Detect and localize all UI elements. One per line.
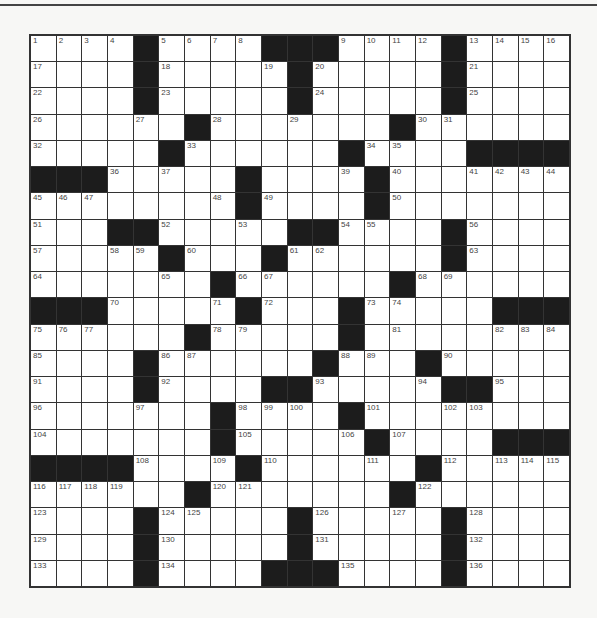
grid-cell[interactable] <box>185 62 210 87</box>
grid-cell[interactable] <box>108 430 133 455</box>
grid-cell[interactable] <box>57 115 82 140</box>
grid-cell[interactable] <box>236 377 261 402</box>
grid-cell[interactable]: 3 <box>82 36 107 61</box>
grid-cell[interactable] <box>442 167 467 192</box>
grid-cell[interactable]: 40 <box>390 167 415 192</box>
grid-cell[interactable]: 112 <box>442 456 467 481</box>
grid-cell[interactable] <box>262 482 287 507</box>
grid-cell[interactable] <box>544 535 569 560</box>
grid-cell[interactable] <box>211 167 236 192</box>
grid-cell[interactable] <box>288 193 313 218</box>
grid-cell[interactable]: 107 <box>390 430 415 455</box>
grid-cell[interactable] <box>211 535 236 560</box>
grid-cell[interactable] <box>108 377 133 402</box>
grid-cell[interactable] <box>262 325 287 350</box>
grid-cell[interactable] <box>339 535 364 560</box>
grid-cell[interactable] <box>57 272 82 297</box>
grid-cell[interactable] <box>416 535 441 560</box>
grid-cell[interactable]: 73 <box>365 298 390 323</box>
grid-cell[interactable] <box>365 115 390 140</box>
grid-cell[interactable] <box>108 88 133 113</box>
grid-cell[interactable] <box>519 561 544 586</box>
grid-cell[interactable] <box>365 377 390 402</box>
grid-cell[interactable] <box>416 325 441 350</box>
grid-cell[interactable] <box>390 456 415 481</box>
grid-cell[interactable] <box>493 535 518 560</box>
grid-cell[interactable] <box>57 561 82 586</box>
grid-cell[interactable]: 135 <box>339 561 364 586</box>
grid-cell[interactable] <box>467 430 492 455</box>
grid-cell[interactable] <box>442 193 467 218</box>
grid-cell[interactable] <box>493 351 518 376</box>
grid-cell[interactable] <box>185 456 210 481</box>
grid-cell[interactable] <box>339 115 364 140</box>
grid-cell[interactable]: 74 <box>390 298 415 323</box>
grid-cell[interactable] <box>390 88 415 113</box>
grid-cell[interactable] <box>57 141 82 166</box>
grid-cell[interactable] <box>544 193 569 218</box>
grid-cell[interactable] <box>416 298 441 323</box>
grid-cell[interactable]: 43 <box>519 167 544 192</box>
grid-cell[interactable] <box>185 535 210 560</box>
grid-cell[interactable]: 12 <box>416 36 441 61</box>
grid-cell[interactable]: 1 <box>31 36 56 61</box>
grid-cell[interactable] <box>365 88 390 113</box>
grid-cell[interactable] <box>493 88 518 113</box>
grid-cell[interactable]: 41 <box>467 167 492 192</box>
grid-cell[interactable] <box>134 430 159 455</box>
grid-cell[interactable]: 59 <box>134 246 159 271</box>
grid-cell[interactable] <box>134 325 159 350</box>
grid-cell[interactable] <box>416 403 441 428</box>
grid-cell[interactable]: 51 <box>31 220 56 245</box>
grid-cell[interactable] <box>159 430 184 455</box>
grid-cell[interactable]: 101 <box>365 403 390 428</box>
grid-cell[interactable] <box>236 561 261 586</box>
grid-cell[interactable]: 82 <box>493 325 518 350</box>
grid-cell[interactable] <box>365 561 390 586</box>
grid-cell[interactable] <box>262 535 287 560</box>
grid-cell[interactable] <box>467 115 492 140</box>
grid-cell[interactable] <box>493 220 518 245</box>
grid-cell[interactable]: 79 <box>236 325 261 350</box>
grid-cell[interactable]: 91 <box>31 377 56 402</box>
grid-cell[interactable] <box>442 482 467 507</box>
grid-cell[interactable]: 100 <box>288 403 313 428</box>
grid-cell[interactable] <box>288 456 313 481</box>
grid-cell[interactable]: 63 <box>467 246 492 271</box>
grid-cell[interactable] <box>236 62 261 87</box>
grid-cell[interactable] <box>313 456 338 481</box>
grid-cell[interactable] <box>57 351 82 376</box>
grid-cell[interactable]: 4 <box>108 36 133 61</box>
grid-cell[interactable]: 116 <box>31 482 56 507</box>
grid-cell[interactable] <box>519 508 544 533</box>
grid-cell[interactable]: 77 <box>82 325 107 350</box>
grid-cell[interactable]: 36 <box>108 167 133 192</box>
grid-cell[interactable] <box>82 561 107 586</box>
grid-cell[interactable] <box>544 508 569 533</box>
grid-cell[interactable] <box>262 430 287 455</box>
grid-cell[interactable]: 60 <box>185 246 210 271</box>
grid-cell[interactable]: 133 <box>31 561 56 586</box>
grid-cell[interactable] <box>313 193 338 218</box>
grid-cell[interactable] <box>519 193 544 218</box>
grid-cell[interactable]: 96 <box>31 403 56 428</box>
grid-cell[interactable] <box>365 482 390 507</box>
grid-cell[interactable]: 10 <box>365 36 390 61</box>
grid-cell[interactable]: 5 <box>159 36 184 61</box>
grid-cell[interactable]: 28 <box>211 115 236 140</box>
grid-cell[interactable]: 85 <box>31 351 56 376</box>
grid-cell[interactable]: 34 <box>365 141 390 166</box>
grid-cell[interactable]: 45 <box>31 193 56 218</box>
grid-cell[interactable]: 127 <box>390 508 415 533</box>
grid-cell[interactable] <box>519 351 544 376</box>
grid-cell[interactable]: 128 <box>467 508 492 533</box>
grid-cell[interactable] <box>313 482 338 507</box>
grid-cell[interactable]: 2 <box>57 36 82 61</box>
grid-cell[interactable]: 125 <box>185 508 210 533</box>
grid-cell[interactable] <box>185 377 210 402</box>
grid-cell[interactable] <box>365 535 390 560</box>
grid-cell[interactable]: 70 <box>108 298 133 323</box>
grid-cell[interactable] <box>236 351 261 376</box>
grid-cell[interactable] <box>211 62 236 87</box>
grid-cell[interactable]: 18 <box>159 62 184 87</box>
